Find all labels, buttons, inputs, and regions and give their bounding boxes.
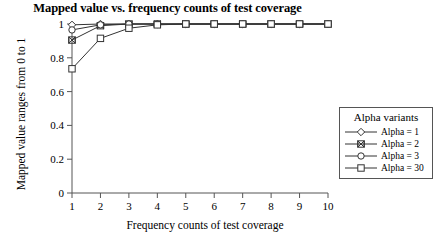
marker-square <box>154 22 160 28</box>
marker-square <box>126 25 132 31</box>
marker-square <box>268 21 274 27</box>
marker-circle <box>69 27 75 33</box>
legend-items: Alpha = 1Alpha = 2Alpha = 3Alpha = 30 <box>344 126 428 174</box>
series-alpha-3 <box>69 21 331 33</box>
y-tick-label: 0.2 <box>50 153 64 165</box>
legend-item: Alpha = 2 <box>344 138 428 150</box>
legend-item: Alpha = 3 <box>344 150 428 162</box>
y-axis-label-text: Mapped value ranges from 0 to 1 <box>15 38 27 191</box>
y-tick-label: 1 <box>59 18 65 30</box>
legend-title: Alpha variants <box>344 110 428 126</box>
marker-square <box>183 21 189 27</box>
series-line <box>72 24 328 40</box>
marker-square <box>296 21 302 27</box>
x-axis-label: Frequency counts of test coverage <box>60 219 350 231</box>
series-line <box>72 24 328 69</box>
x-tick-label: 8 <box>268 200 274 212</box>
x-tick-label: 2 <box>98 200 104 212</box>
chart-container: Mapped value vs. frequency counts of tes… <box>0 0 445 249</box>
x-tick-label: 7 <box>240 200 246 212</box>
marker-square <box>211 21 217 27</box>
legend-item-label: Alpha = 2 <box>378 139 419 149</box>
legend-item-label: Alpha = 1 <box>378 127 419 137</box>
x-tick-label: 6 <box>211 200 217 212</box>
marker-square <box>358 165 364 171</box>
x-tick-label: 1 <box>69 200 75 212</box>
x-tick-label: 9 <box>297 200 303 212</box>
marker-diamond <box>357 128 364 135</box>
legend-item-label: Alpha = 30 <box>378 163 424 173</box>
x-tick-label: 10 <box>323 200 335 212</box>
marker-circle <box>358 153 364 159</box>
series-line <box>72 24 328 30</box>
legend-item: Alpha = 30 <box>344 162 428 174</box>
marker-square <box>97 35 103 41</box>
legend-item-label: Alpha = 3 <box>378 151 419 161</box>
marker-square <box>325 21 331 27</box>
x-tick-label: 5 <box>183 200 189 212</box>
legend-marker-square-icon <box>344 162 378 174</box>
y-axis-label: Mapped value ranges from 0 to 1 <box>15 19 27 209</box>
x-axis-label-text: Frequency counts of test coverage <box>126 219 283 231</box>
x-tick-label: 4 <box>155 200 161 212</box>
series-alpha-30 <box>69 21 331 72</box>
legend-marker-circle-icon <box>344 150 378 162</box>
marker-circle <box>97 22 103 28</box>
marker-square <box>69 66 75 72</box>
y-tick-label: 0 <box>59 187 65 199</box>
y-tick-label: 0.8 <box>50 52 64 64</box>
y-tick-label: 0.6 <box>50 86 64 98</box>
y-tick-label: 0.4 <box>50 119 64 131</box>
x-tick-label: 3 <box>126 200 132 212</box>
marker-square <box>239 21 245 27</box>
legend-item: Alpha = 1 <box>344 126 428 138</box>
legend-marker-diamond-icon <box>344 126 378 138</box>
legend: Alpha variants Alpha = 1Alpha = 2Alpha =… <box>339 107 433 179</box>
legend-marker-bowtie-icon <box>344 138 378 150</box>
